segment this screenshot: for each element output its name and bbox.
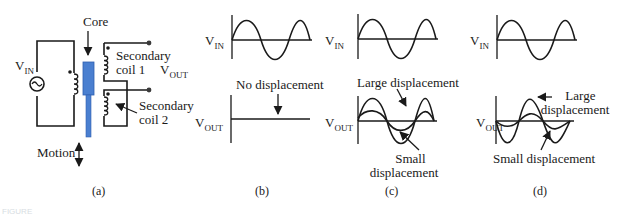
core-rod [83, 62, 94, 95]
caption-c: (c) [385, 184, 398, 198]
lvdt-diagram: VIN Core Secondary coil 1 VOUT Secondary… [0, 0, 633, 216]
small-displacement-label-c: Small displacement [370, 151, 439, 180]
vout-label-b: VOUT [195, 115, 223, 133]
no-displacement-label: No displacement [236, 77, 324, 92]
vout-terminal-bottom [147, 88, 152, 93]
large-displacement-label-c: Large displacement [357, 75, 459, 90]
primary-dot [68, 70, 72, 74]
vin-label-b: VIN [205, 33, 224, 51]
panel-a-lvdt-schematic: VIN Core Secondary coil 1 VOUT Secondary… [15, 14, 197, 198]
small-displacement-label-d: Small displacement [493, 151, 596, 166]
core-label: Core [83, 14, 109, 29]
large-displacement-label-d: Large displacement [541, 88, 610, 117]
panel-c-in-phase-displacement: VIN Large displacement VOUT Small displa… [325, 14, 459, 198]
vin-label-d: VIN [470, 33, 489, 51]
caption-b: (b) [255, 184, 269, 198]
secondary-coil-2-label: Secondary coil 2 [139, 98, 197, 127]
panel-d-out-of-phase-displacement: VIN VOUT Large displacement Small displa… [470, 15, 610, 198]
large-arrow-c [397, 89, 406, 106]
vin-label-a: VIN [15, 58, 34, 76]
vin-label-c: VIN [325, 33, 344, 51]
core-shaft [86, 95, 91, 137]
vout-label-a: VOUT [160, 62, 188, 80]
coil2-dot [106, 92, 110, 96]
caption-d: (d) [533, 184, 547, 198]
caption-a: (a) [92, 184, 105, 198]
vout-terminal-top [147, 41, 152, 46]
small-arrow-d [541, 131, 550, 150]
panel-b-no-displacement: VIN No displacement VOUT (b) [195, 15, 324, 198]
figure-label: FIGURE [2, 207, 32, 216]
vout-label-c: VOUT [325, 115, 353, 133]
motion-label: Motion [37, 145, 76, 160]
coil1-dot [106, 46, 110, 50]
